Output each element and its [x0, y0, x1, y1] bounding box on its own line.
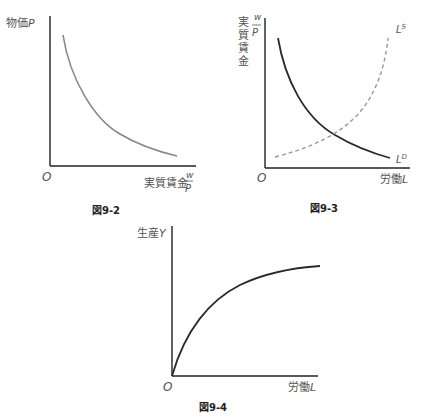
caption-9-2: 図9-2 — [92, 205, 120, 216]
svg-text:賃: 賃 — [238, 41, 249, 55]
production-function-curve — [172, 266, 320, 376]
caption-9-4: 図9-4 — [199, 402, 227, 413]
origin-label: O — [257, 171, 266, 185]
demand-curve-label: LD — [396, 153, 408, 165]
supply-curve-label: LS — [396, 23, 407, 35]
svg-text:w: w — [254, 12, 262, 22]
price-real-wage-curve — [63, 35, 177, 156]
y-axis-label: 実 質 賃 金 w P — [238, 12, 262, 68]
figure-9-4: 生産Y O 労働L 図9-4 — [137, 226, 320, 413]
svg-text:P: P — [252, 27, 259, 38]
y-axis-label: 物価P — [6, 16, 35, 30]
svg-text:実: 実 — [238, 15, 249, 29]
origin-label: O — [42, 170, 51, 184]
x-axis-label: 労働L — [380, 172, 408, 186]
labor-demand-curve — [278, 38, 390, 158]
origin-label: O — [163, 380, 172, 394]
caption-9-3: 図9-3 — [310, 203, 338, 214]
svg-text:金: 金 — [238, 54, 249, 68]
labor-supply-curve — [275, 38, 388, 157]
figure-9-2: 物価P O 実質賃金 w P 図9-2 — [6, 16, 196, 216]
x-frac-denominator: P — [185, 183, 192, 194]
svg-text:質: 質 — [238, 28, 249, 42]
figure-canvas: 物価P O 実質賃金 w P 図9-2 実 質 賃 金 w P LS LD O … — [0, 0, 424, 419]
figure-9-3: 実 質 賃 金 w P LS LD O 労働L 図9-3 — [238, 12, 410, 214]
x-axis-label: 実質賃金 — [144, 176, 188, 190]
x-axis-label: 労働L — [288, 380, 316, 394]
y-axis-label: 生産Y — [137, 226, 167, 240]
x-frac-numerator: w — [186, 170, 194, 180]
